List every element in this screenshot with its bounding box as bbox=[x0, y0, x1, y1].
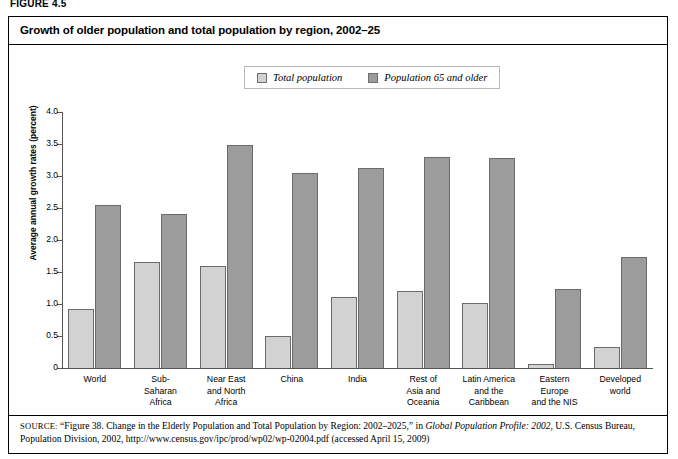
bar bbox=[358, 168, 384, 368]
source-note: SOURCE: “Figure 38. Change in the Elderl… bbox=[20, 420, 658, 445]
x-axis-label: India bbox=[325, 374, 391, 409]
bar bbox=[621, 257, 647, 368]
x-axis-label: EasternEuropeand the NIS bbox=[522, 374, 588, 409]
x-axis-label: Near Eastand NorthAfrica bbox=[193, 374, 259, 409]
bar-group bbox=[390, 112, 456, 368]
bar bbox=[555, 289, 581, 368]
tick-label: 2.5 bbox=[46, 202, 58, 212]
bar bbox=[292, 173, 318, 368]
bar bbox=[594, 347, 620, 368]
bar-group bbox=[325, 112, 391, 368]
bar bbox=[200, 266, 226, 368]
x-axis-label: China bbox=[259, 374, 325, 409]
bar-group bbox=[193, 112, 259, 368]
x-axis-label: Developedworld bbox=[587, 374, 653, 409]
tick-label: 1.5 bbox=[46, 266, 58, 276]
x-axis-label: World bbox=[62, 374, 128, 409]
tick-label: 2.0 bbox=[46, 234, 58, 244]
source-text-part-1: “Figure 38. Change in the Elderly Popula… bbox=[60, 420, 425, 431]
bar-group bbox=[456, 112, 522, 368]
tick-label: 4.0 bbox=[46, 106, 58, 116]
tick-label: 3.0 bbox=[46, 170, 58, 180]
tick-label: 0.5 bbox=[46, 330, 58, 340]
bar bbox=[528, 364, 554, 368]
source-prefix: SOURCE: bbox=[20, 421, 58, 431]
bar bbox=[68, 309, 94, 368]
bar-group bbox=[62, 112, 128, 368]
bar bbox=[134, 262, 160, 368]
bar bbox=[462, 303, 488, 368]
plot-area: Average annual growth rates (percent) 00… bbox=[0, 0, 678, 459]
tick-label: 0 bbox=[53, 362, 58, 372]
bar-group bbox=[587, 112, 653, 368]
bar bbox=[424, 157, 450, 368]
source-italic-title: Global Population Profile: 2002 bbox=[425, 420, 550, 431]
tick-label: 1.0 bbox=[46, 298, 58, 308]
bar bbox=[489, 158, 515, 368]
x-axis-label: Latin Americaand theCaribbean bbox=[456, 374, 522, 409]
source-divider bbox=[9, 415, 667, 416]
bar bbox=[331, 297, 357, 368]
bar bbox=[161, 214, 187, 368]
x-axis-line bbox=[62, 368, 653, 369]
bar-group bbox=[522, 112, 588, 368]
tick-label: 3.5 bbox=[46, 138, 58, 148]
bar bbox=[95, 205, 121, 368]
bar bbox=[265, 336, 291, 368]
bar bbox=[227, 145, 253, 368]
figure-container: FIGURE 4.5 Growth of older population an… bbox=[0, 0, 678, 459]
x-axis-labels: WorldSub-SaharanAfricaNear Eastand North… bbox=[62, 374, 653, 409]
x-axis-label: Sub-SaharanAfrica bbox=[128, 374, 194, 409]
x-axis-label: Rest ofAsia andOceania bbox=[390, 374, 456, 409]
bar bbox=[397, 291, 423, 368]
bar-groups bbox=[62, 112, 653, 368]
y-axis-title: Average annual growth rates (percent) bbox=[28, 98, 38, 268]
bar-group bbox=[128, 112, 194, 368]
bar-group bbox=[259, 112, 325, 368]
